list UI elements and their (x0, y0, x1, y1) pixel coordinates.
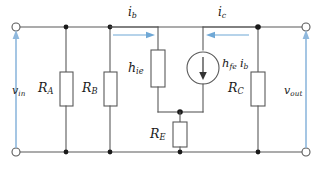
node-dot-ra-bottom (64, 150, 69, 155)
circuit-diagram: vin RA RB hie RE RC vout ib ic hfeib (0, 0, 322, 174)
i-c-current-arrow (206, 32, 249, 38)
resistor-rc-branch (251, 24, 265, 154)
node-dot-rc-top (255, 24, 261, 30)
resistor-rb-branch (104, 25, 117, 155)
node-dot-rb-bottom (108, 150, 113, 155)
v-out-arrow (303, 30, 310, 148)
label-i-c: ic (218, 6, 226, 18)
label-h-ie: hie (128, 62, 144, 75)
input-bottom-terminal (12, 148, 20, 156)
label-v-in: vin (12, 85, 25, 96)
resistor-ra-branch (60, 25, 73, 155)
rb-body (104, 72, 117, 106)
input-top-terminal (12, 23, 20, 31)
node-dot-rc-bottom (256, 150, 261, 155)
label-current-source: hfeib (222, 58, 249, 70)
output-bottom-terminal (302, 148, 310, 156)
node-dot-ra-top (64, 25, 69, 30)
label-r-c: RC (228, 82, 244, 95)
resistor-re-branch (173, 109, 187, 154)
i-b-arrow-head-right-icon (146, 32, 155, 38)
label-r-e: RE (150, 128, 166, 141)
v-in-arrow-head-up-icon (13, 30, 20, 39)
resistor-hie-branch (110, 27, 180, 112)
label-r-b: RB (82, 82, 98, 95)
re-body (173, 122, 187, 147)
label-r-a: RA (38, 82, 53, 95)
node-dot-re-bottom (178, 150, 183, 155)
i-b-current-arrow (113, 32, 155, 38)
hie-body (151, 50, 165, 87)
v-out-arrow-head-up-icon (303, 30, 310, 39)
rc-body (251, 72, 265, 106)
label-i-b: ib (128, 6, 137, 18)
output-top-terminal (302, 23, 310, 31)
label-v-out: vout (284, 85, 302, 96)
ra-body (60, 72, 73, 106)
i-c-arrow-head-left-icon (206, 32, 215, 38)
